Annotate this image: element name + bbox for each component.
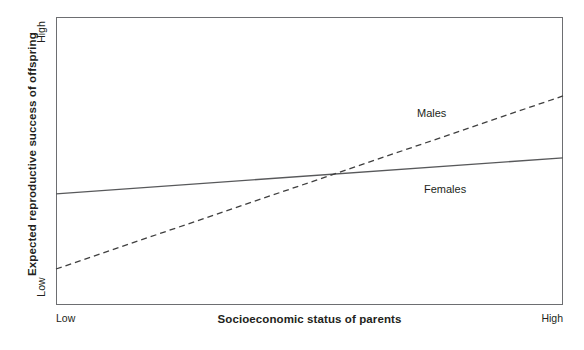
series-label-females: Females: [424, 183, 466, 195]
series-line-males: [56, 96, 563, 269]
plot-lines: [56, 17, 563, 305]
y-axis-title: Expected reproductive success of offspri…: [26, 36, 38, 276]
x-axis-title: Socioeconomic status of parents: [56, 313, 563, 325]
y-axis-tick-high: High: [35, 12, 47, 52]
series-line-females: [56, 158, 563, 194]
series-label-males: Males: [417, 107, 446, 119]
chart-figure: Expected reproductive success of offspri…: [0, 0, 584, 350]
y-axis-tick-low: Low: [35, 267, 47, 307]
